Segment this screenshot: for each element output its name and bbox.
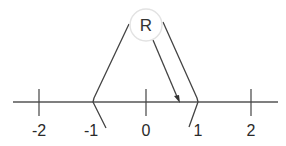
tick-label-2: 2 bbox=[247, 122, 256, 139]
left-bracket bbox=[93, 24, 129, 128]
number-line-diagram: -2 -1 0 1 2 R bbox=[0, 0, 286, 146]
arrow-line bbox=[153, 40, 178, 99]
tick-labels: -2 -1 0 1 2 bbox=[32, 122, 256, 139]
tick-label-0: 0 bbox=[142, 122, 151, 139]
tick-label-minus-1: -1 bbox=[84, 122, 98, 139]
tick-label-1: 1 bbox=[194, 122, 203, 139]
r-node-label: R bbox=[140, 16, 152, 35]
tick-label-minus-2: -2 bbox=[32, 122, 46, 139]
